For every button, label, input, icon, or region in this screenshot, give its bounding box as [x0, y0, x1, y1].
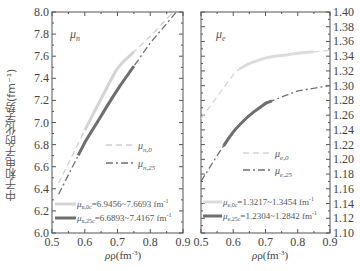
highlight-mu-n-25c — [78, 66, 134, 155]
right-x-axis-title: ρρ(fm-3) — [251, 249, 289, 262]
highlight-mu-e-25c — [224, 101, 272, 146]
legend-label-mu-e-25: μe,25 — [274, 165, 292, 179]
series-mu-e-0 — [201, 50, 330, 119]
svg-text:0.8: 0.8 — [290, 235, 305, 249]
svg-text:1.22: 1.22 — [333, 138, 354, 152]
svg-text:8.0: 8.0 — [34, 5, 49, 19]
svg-text:6.2: 6.2 — [34, 204, 49, 218]
highlight-mu-e-0c — [240, 52, 314, 69]
svg-text:1.40: 1.40 — [333, 5, 354, 19]
svg-text:0.9: 0.9 — [323, 235, 338, 249]
svg-text:1.32: 1.32 — [333, 64, 354, 78]
range-label-mu-e-25c: μe,25c=1.2304~1.2842 fm-1 — [222, 210, 317, 222]
legend-label-mu-e-0: μe,0 — [274, 148, 289, 162]
right-panel-label: μe — [215, 27, 226, 43]
svg-text:0.9: 0.9 — [176, 235, 191, 249]
svg-text:0.8: 0.8 — [143, 235, 158, 249]
left-panel-label: μn — [69, 27, 80, 43]
svg-text:0.5: 0.5 — [45, 235, 60, 249]
svg-text:0.6: 0.6 — [77, 235, 92, 249]
svg-text:7.4: 7.4 — [34, 71, 49, 85]
legend-label-mu-n-0: μn,0 — [137, 140, 152, 154]
svg-text:7.2: 7.2 — [34, 93, 49, 107]
svg-text:1.20: 1.20 — [333, 152, 354, 166]
svg-text:7.6: 7.6 — [34, 49, 49, 63]
svg-text:7.8: 7.8 — [34, 27, 49, 41]
svg-text:0.5: 0.5 — [194, 235, 209, 249]
svg-text:1.34: 1.34 — [333, 49, 354, 63]
svg-text:6.4: 6.4 — [34, 182, 49, 196]
svg-text:0.7: 0.7 — [258, 235, 273, 249]
svg-text:1.28: 1.28 — [333, 93, 354, 107]
range-label-mu-e-0c: μe,0c=1.3217~1.3454 fm-1 — [222, 196, 314, 208]
right-x-tick-labels: 0.50.60.70.80.9 — [194, 235, 338, 249]
right-panel: 1.101.121.141.161.181.201.221.241.261.28… — [194, 5, 355, 262]
svg-text:6.8: 6.8 — [34, 138, 49, 152]
series-mu-e-25 — [201, 86, 330, 182]
svg-text:1.16: 1.16 — [333, 182, 354, 196]
svg-text:1.18: 1.18 — [333, 167, 354, 181]
svg-text:1.36: 1.36 — [333, 34, 354, 48]
svg-text:1.30: 1.30 — [333, 79, 354, 93]
svg-text:6.6: 6.6 — [34, 160, 49, 174]
svg-text:1.26: 1.26 — [333, 108, 354, 122]
svg-text:7.0: 7.0 — [34, 116, 49, 130]
range-label-mu-n-25c: μn,25c=6.6893~7.4167 fm-1 — [76, 212, 171, 224]
svg-text:0.7: 0.7 — [110, 235, 125, 249]
left-y-tick-labels: 6.06.26.46.66.87.07.27.47.67.88.0 — [34, 5, 49, 240]
svg-text:1.14: 1.14 — [333, 197, 354, 211]
left-x-tick-labels: 0.50.60.70.80.9 — [45, 235, 191, 249]
left-panel: 6.06.26.46.66.87.07.27.47.67.88.0 0.50.6… — [34, 5, 191, 262]
svg-text:1.38: 1.38 — [333, 20, 354, 34]
svg-text:1.12: 1.12 — [333, 211, 354, 225]
highlight-mu-n-0c — [85, 52, 134, 130]
chart-canvas: 6.06.26.46.66.87.07.27.47.67.88.0 0.50.6… — [0, 0, 360, 271]
right-y-tick-labels: 1.101.121.141.161.181.201.221.241.261.28… — [333, 5, 354, 240]
svg-text:1.24: 1.24 — [333, 123, 354, 137]
left-x-axis-title: ρρ(fm-3) — [104, 249, 142, 262]
svg-text:0.6: 0.6 — [226, 235, 241, 249]
legend-label-mu-n-25: μn,25 — [137, 158, 156, 172]
range-label-mu-n-0c: μn,0c=6.9456~7.6693 fm-1 — [76, 198, 168, 210]
